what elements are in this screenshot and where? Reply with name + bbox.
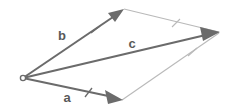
origin-point-marker <box>20 75 25 80</box>
vector-diagram-canvas: b c a <box>0 0 234 109</box>
vector-addition-diagram: b c a <box>0 0 234 109</box>
tick-mark-construction-bottom <box>188 48 197 56</box>
vector-label-b: b <box>58 28 66 43</box>
tick-mark-construction-top <box>172 19 180 27</box>
vector-label-a: a <box>63 90 71 105</box>
vector-label-c: c <box>128 36 135 51</box>
vector-a-arrowhead <box>105 90 123 104</box>
tick-mark-vector-b <box>91 26 100 33</box>
vector-b-shaft <box>23 15 116 78</box>
vector-c-shaft <box>23 34 210 78</box>
